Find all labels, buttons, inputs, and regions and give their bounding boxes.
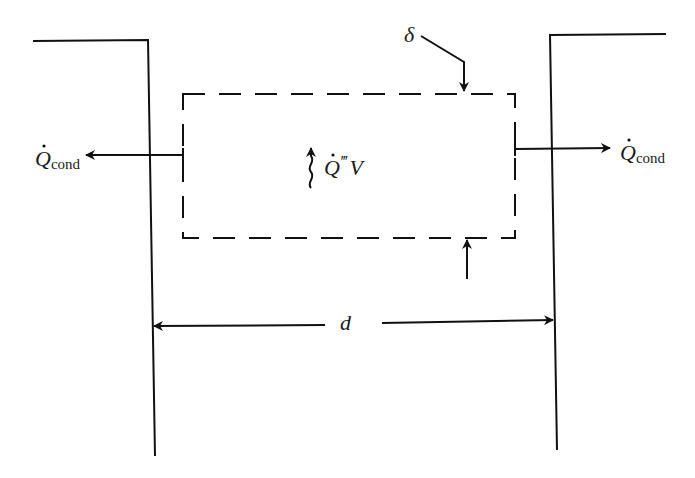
heat-generation-wavy-arrow-icon [310,148,313,188]
left-heat-flow-arrow [86,148,183,162]
q-cond-left-label: Qcond [35,146,81,172]
heat-generation-label: Q‴V [324,153,366,180]
heat-generation-dot [331,153,334,156]
spacing-dimension-line [154,320,553,326]
right-wall [550,34,666,450]
thickness-label: δ [404,22,415,47]
q-cond-left-dot [42,144,45,147]
q-cond-right-dot [627,138,630,141]
heat-conduction-diagram: Qcond Qcond Q‴V δ d [0,0,695,478]
spacing-label: d [340,310,352,335]
left-wall [33,40,155,456]
q-cond-right-label: Qcond [620,140,666,166]
right-heat-flow-arrow [515,142,610,156]
thickness-top-arrow [421,36,464,91]
